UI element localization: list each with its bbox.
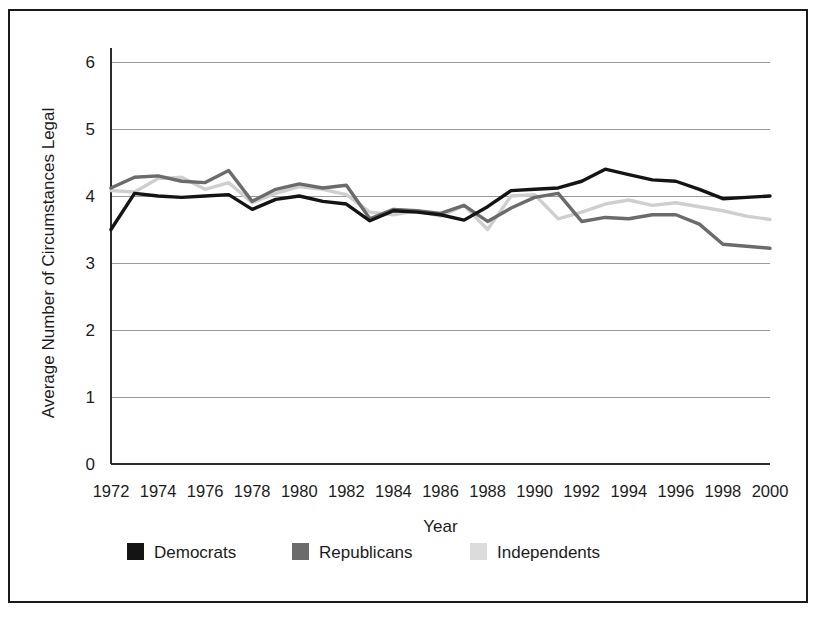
y-axis-title: Average Number of Circumstances Legal bbox=[39, 108, 58, 419]
y-tick-label-6: 6 bbox=[86, 53, 95, 72]
x-tick-label-2000: 2000 bbox=[752, 482, 789, 500]
x-axis-title: Year bbox=[423, 517, 458, 536]
legend-swatch-independents bbox=[470, 543, 487, 560]
x-tick-label-1984: 1984 bbox=[375, 482, 412, 500]
y-tick-label-0: 0 bbox=[86, 455, 95, 474]
legend-item-independents[interactable]: Independents bbox=[470, 543, 600, 562]
x-tick-label-1976: 1976 bbox=[187, 482, 224, 500]
x-tick-label-1992: 1992 bbox=[563, 482, 600, 500]
y-tick-label-2: 2 bbox=[86, 321, 95, 340]
x-tick-label-1982: 1982 bbox=[328, 482, 365, 500]
x-tick-label-1978: 1978 bbox=[234, 482, 271, 500]
x-tick-label-1996: 1996 bbox=[657, 482, 694, 500]
x-tick-label-1990: 1990 bbox=[516, 482, 553, 500]
series-line-independents bbox=[111, 177, 770, 229]
legend-swatch-democrats bbox=[127, 543, 144, 560]
legend-swatch-republicans bbox=[292, 543, 309, 560]
x-tick-label-1988: 1988 bbox=[469, 482, 506, 500]
y-tick-label-4: 4 bbox=[86, 187, 95, 206]
legend-item-republicans[interactable]: Republicans bbox=[292, 543, 413, 562]
x-tick-label-1972: 1972 bbox=[93, 482, 130, 500]
series-line-democrats bbox=[111, 169, 770, 229]
x-tick-label-1994: 1994 bbox=[610, 482, 647, 500]
x-tick-label-1980: 1980 bbox=[281, 482, 318, 500]
y-tick-label-3: 3 bbox=[86, 254, 95, 273]
line-chart: 0123456197219741976197819801982198419861… bbox=[10, 11, 806, 601]
figure-frame: 0123456197219741976197819801982198419861… bbox=[8, 9, 808, 603]
x-tick-label-1986: 1986 bbox=[422, 482, 459, 500]
x-tick-label-1974: 1974 bbox=[140, 482, 177, 500]
legend-label-democrats: Democrats bbox=[154, 543, 236, 562]
y-tick-label-1: 1 bbox=[86, 388, 95, 407]
y-tick-label-5: 5 bbox=[86, 120, 95, 139]
legend-label-independents: Independents bbox=[497, 543, 600, 562]
x-tick-label-1998: 1998 bbox=[705, 482, 742, 500]
legend-item-democrats[interactable]: Democrats bbox=[127, 543, 236, 562]
legend-label-republicans: Republicans bbox=[319, 543, 413, 562]
